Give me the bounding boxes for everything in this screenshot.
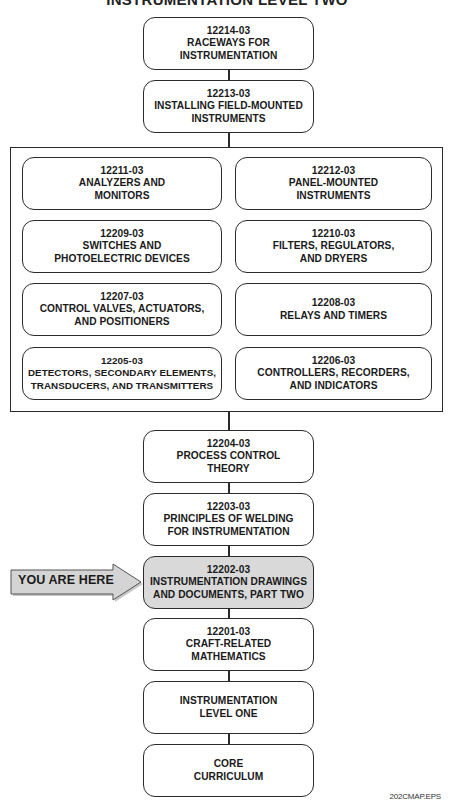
- module-box-12202-current: 12202-03 INSTRUMENTATION DRAWINGS AND DO…: [143, 556, 314, 609]
- module-title-line: SWITCHES AND: [83, 240, 162, 253]
- module-box-12203: 12203-03 PRINCIPLES OF WELDING FOR INSTR…: [143, 493, 314, 546]
- connector-line: [228, 546, 230, 556]
- module-title-line: INSTRUMENTATION: [180, 50, 278, 63]
- module-box-12204: 12204-03 PROCESS CONTROL THEORY: [143, 430, 314, 483]
- module-title-line: INSTRUMENTS: [296, 190, 370, 203]
- module-title-line: MATHEMATICS: [191, 651, 265, 664]
- module-title-line: FILTERS, REGULATORS,: [273, 240, 395, 253]
- module-code: 12214-03: [207, 25, 250, 38]
- module-box-12208: 12208-03 RELAYS AND TIMERS: [235, 283, 432, 336]
- connector-line: [228, 70, 230, 80]
- connector-line: [228, 412, 230, 430]
- connector-line: [228, 133, 230, 147]
- module-box-12205: 12205-03 DETECTORS, SECONDARY ELEMENTS, …: [22, 347, 222, 400]
- module-title-line: TRANSDUCERS, AND TRANSMITTERS: [31, 380, 213, 393]
- module-code: 12206-03: [312, 355, 355, 368]
- module-title-line: RELAYS AND TIMERS: [280, 310, 387, 323]
- module-code: 12209-03: [100, 228, 143, 241]
- module-title-line: AND INDICATORS: [289, 380, 377, 393]
- module-title-line: DETECTORS, SECONDARY ELEMENTS,: [28, 367, 216, 380]
- module-title-line: INSTRUMENTATION: [180, 695, 278, 708]
- module-title-line: PRINCIPLES OF WELDING: [163, 513, 293, 526]
- module-title-line: LEVEL ONE: [199, 708, 257, 721]
- module-title-line: PROCESS CONTROL: [177, 450, 281, 463]
- module-code: 12205-03: [101, 355, 143, 368]
- diagram-title: INSTRUMENTATION LEVEL TWO: [0, 0, 454, 8]
- you-are-here-label: YOU ARE HERE: [18, 573, 114, 587]
- module-box-12207: 12207-03 CONTROL VALVES, ACTUATORS, AND …: [22, 283, 222, 336]
- module-title-line: PANEL-MOUNTED: [289, 177, 378, 190]
- module-title-line: PHOTOELECTRIC DEVICES: [54, 253, 190, 266]
- figure-filename: 202CMAP.EPS: [390, 792, 441, 801]
- module-code: 12204-03: [207, 438, 250, 451]
- module-box-12201: 12201-03 CRAFT-RELATED MATHEMATICS: [143, 618, 314, 671]
- module-box-12213: 12213-03 INSTALLING FIELD-MOUNTED INSTRU…: [143, 80, 314, 133]
- module-title-line: THEORY: [207, 463, 249, 476]
- module-title-line: CORE: [214, 758, 244, 771]
- connector-line: [228, 609, 230, 618]
- module-code: 12213-03: [207, 88, 250, 101]
- module-code: 12202-03: [207, 564, 250, 577]
- module-title-line: AND DOCUMENTS, PART TWO: [153, 589, 304, 602]
- module-title-line: FOR INSTRUMENTATION: [167, 526, 289, 539]
- connector-line: [228, 671, 230, 681]
- module-code: 12212-03: [312, 165, 355, 178]
- module-code: 12208-03: [312, 297, 355, 310]
- module-title-line: INSTALLING FIELD-MOUNTED: [154, 100, 303, 113]
- module-title-line: INSTRUMENTATION DRAWINGS: [150, 576, 307, 589]
- module-title-line: CONTROL VALVES, ACTUATORS,: [40, 303, 205, 316]
- module-title-line: AND POSITIONERS: [74, 316, 169, 329]
- module-code: 12210-03: [312, 228, 355, 241]
- module-box-12214: 12214-03 RACEWAYS FOR INSTRUMENTATION: [143, 17, 314, 70]
- module-code: 12207-03: [100, 291, 143, 304]
- connector-line: [228, 483, 230, 493]
- module-box-12209: 12209-03 SWITCHES AND PHOTOELECTRIC DEVI…: [22, 220, 222, 273]
- module-box-12206: 12206-03 CONTROLLERS, RECORDERS, AND IND…: [235, 347, 432, 400]
- module-title-line: CRAFT-RELATED: [186, 638, 271, 651]
- module-title-line: INSTRUMENTS: [191, 113, 265, 126]
- module-code: 12211-03: [101, 165, 144, 178]
- module-box-core-curriculum: CORE CURRICULUM: [143, 744, 314, 797]
- module-box-12211: 12211-03 ANALYZERS AND MONITORS: [22, 157, 222, 210]
- module-title-line: CONTROLLERS, RECORDERS,: [257, 367, 409, 380]
- module-title-line: RACEWAYS FOR: [187, 37, 270, 50]
- module-title-line: MONITORS: [94, 190, 149, 203]
- module-title-line: CURRICULUM: [194, 771, 264, 784]
- module-code: 12203-03: [207, 501, 250, 514]
- connector-line: [228, 734, 230, 744]
- module-code: 12201-03: [207, 626, 250, 639]
- module-box-12210: 12210-03 FILTERS, REGULATORS, AND DRYERS: [235, 220, 432, 273]
- module-box-instrumentation-level-one: INSTRUMENTATION LEVEL ONE: [143, 681, 314, 734]
- module-title-line: ANALYZERS AND: [79, 177, 166, 190]
- module-title-line: AND DRYERS: [300, 253, 367, 266]
- module-box-12212: 12212-03 PANEL-MOUNTED INSTRUMENTS: [235, 157, 432, 210]
